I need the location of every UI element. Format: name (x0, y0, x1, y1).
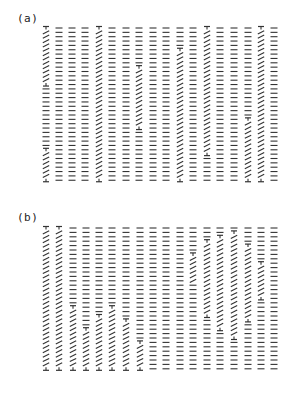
panel-b-director-field (0, 0, 296, 393)
